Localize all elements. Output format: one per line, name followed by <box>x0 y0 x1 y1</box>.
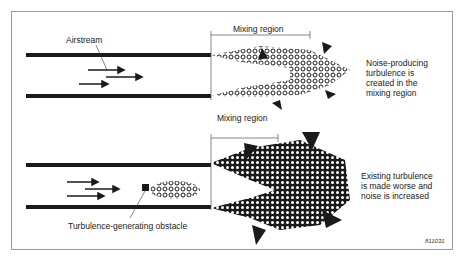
mixing-region-label-top: Mixing region <box>233 24 284 34</box>
top-turbulence-plume <box>211 46 350 97</box>
airstream-arrows-icon <box>79 67 142 87</box>
obstacle-leader-line <box>130 191 145 218</box>
airstream-arrows-icon <box>67 179 119 199</box>
top-duct <box>26 53 211 98</box>
reference-code: 811031 <box>425 238 445 244</box>
airstream-leader-line <box>96 45 107 70</box>
obstacle-turbulence <box>150 181 200 199</box>
obstacle-icon <box>142 184 149 191</box>
bottom-description: Existing turbulence is made worse and no… <box>361 171 433 201</box>
top-description: Noise-producing turbulence is created in… <box>366 58 428 98</box>
airstream-label: Airstream <box>66 35 102 45</box>
mixing-region-label-bottom: Mixing region <box>217 113 268 123</box>
obstacle-label: Turbulence-generating obstacle <box>68 221 187 231</box>
